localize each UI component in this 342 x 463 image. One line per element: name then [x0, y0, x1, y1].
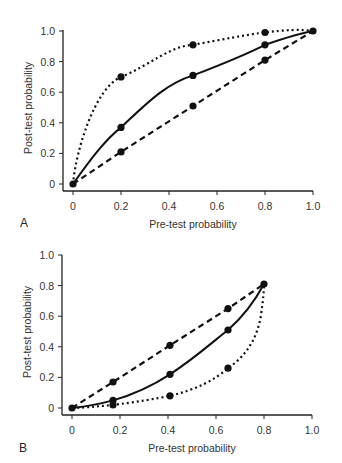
svg-text:0.4: 0.4	[39, 341, 54, 353]
svg-text:0.8: 0.8	[40, 56, 55, 68]
svg-text:0: 0	[49, 178, 55, 190]
panel-label-b: B	[19, 441, 27, 455]
svg-text:0.2: 0.2	[39, 371, 54, 383]
svg-text:0.4: 0.4	[162, 200, 177, 212]
svg-text:1.0: 1.0	[305, 424, 320, 436]
svg-text:1.0: 1.0	[40, 25, 55, 37]
svg-text:0.6: 0.6	[39, 310, 54, 322]
chart-b: 0 0.2 0.4 0.6 0.8 1.0 0 0.2 0.4 0.6 0.8 …	[19, 249, 319, 455]
y-tick-labels-a: 0 0.2 0.4 0.6 0.8 1.0	[40, 25, 55, 190]
svg-text:0.4: 0.4	[40, 117, 55, 129]
y-tick-labels-b: 0 0.2 0.4 0.6 0.8 1.0	[39, 249, 54, 414]
svg-text:0.2: 0.2	[40, 147, 55, 159]
figure: 0 0.2 0.4 0.6 0.8 1.0 0 0.2 0.4 0.6 0.8 …	[0, 0, 342, 463]
svg-text:0: 0	[69, 424, 75, 436]
chart-a: 0 0.2 0.4 0.6 0.8 1.0 0 0.2 0.4 0.6 0.8 …	[20, 25, 320, 230]
svg-text:0.6: 0.6	[210, 200, 225, 212]
svg-text:0: 0	[70, 200, 76, 212]
svg-text:0.8: 0.8	[257, 424, 272, 436]
y-axis-title-a: Post-test probability	[22, 61, 34, 154]
y-axis-title-b: Post-test probability	[21, 285, 33, 378]
svg-text:1.0: 1.0	[39, 249, 54, 261]
svg-text:1.0: 1.0	[306, 200, 321, 212]
svg-text:0.8: 0.8	[39, 280, 54, 292]
panel-label-a: A	[20, 216, 28, 230]
svg-text:0.6: 0.6	[40, 86, 55, 98]
x-tick-labels-a: 0 0.2 0.4 0.6 0.8 1.0	[70, 200, 320, 212]
svg-text:0.8: 0.8	[258, 200, 273, 212]
x-tick-labels-b: 0 0.2 0.4 0.6 0.8 1.0	[69, 424, 319, 436]
svg-text:0.6: 0.6	[209, 424, 224, 436]
x-axis-title-b: Pre-test probability	[148, 442, 236, 454]
svg-text:0.2: 0.2	[113, 424, 128, 436]
svg-text:0.4: 0.4	[161, 424, 176, 436]
svg-text:0.2: 0.2	[114, 200, 129, 212]
x-axis-title-a: Pre-test probability	[149, 218, 237, 230]
svg-text:0: 0	[48, 402, 54, 414]
